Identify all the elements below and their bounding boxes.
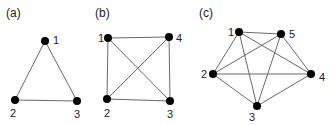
panel-c: (c)15243 [199,6,325,123]
node-5 [277,30,285,38]
node-1 [235,28,243,36]
edge-1-2 [213,32,239,74]
panel-label: (a) [6,6,21,20]
edge-2-3 [107,99,170,101]
node-2 [209,70,217,78]
node-label: 4 [176,32,182,44]
node-label: 3 [74,108,80,120]
node-3 [166,97,174,105]
panel-label: (b) [95,6,110,20]
node-label: 3 [167,108,173,120]
node-label: 1 [228,26,234,38]
node-1 [41,37,49,45]
edge-4-3 [169,37,170,101]
graph-diagram: (a)123(b)1423(c)15243 [0,0,336,125]
panel-b: (b)1423 [95,6,182,120]
node-label: 5 [289,28,295,40]
edge-5-2 [213,34,281,74]
node-1 [104,34,112,42]
node-4 [165,33,173,41]
node-label: 3 [249,111,255,123]
node-3 [73,97,81,105]
node-label: 2 [201,68,207,80]
panel-label: (c) [199,6,213,20]
edge-2-3 [15,100,77,101]
edge-1-3 [108,38,170,101]
node-label: 1 [98,32,104,44]
edge-4-3 [257,74,311,106]
panel-a: (a)123 [6,6,81,120]
node-label: 4 [319,71,325,83]
edge-1-5 [239,32,281,34]
node-4 [307,70,315,78]
edge-1-4 [108,37,169,38]
node-label: 2 [104,107,110,119]
node-2 [103,95,111,103]
node-label: 2 [10,107,16,119]
edge-1-2 [15,41,45,100]
node-2 [11,96,19,104]
node-3 [253,102,261,110]
node-label: 1 [53,34,59,46]
edge-5-4 [281,34,311,74]
edge-1-3 [45,41,77,101]
edge-1-2 [107,38,108,99]
